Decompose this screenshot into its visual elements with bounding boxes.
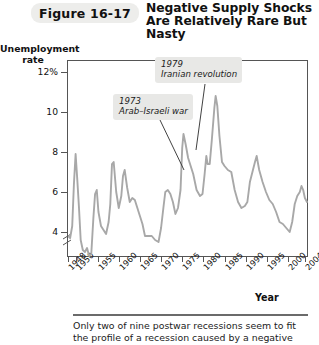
caption-divider: [73, 314, 308, 316]
callout-1979-year: 1979: [161, 59, 237, 69]
leader-line-1979: [196, 84, 205, 150]
callout-1973-event: Arab–Israeli war: [119, 106, 188, 116]
callout-leader-lines: [0, 0, 319, 345]
figure-container: Figure 16-17 Negative Supply Shocks Are …: [0, 0, 319, 345]
callout-1973-year: 1973: [119, 96, 188, 106]
callout-1979-iranian-revolution: 1979 Iranian revolution: [155, 57, 242, 83]
figure-caption: Only two of nine postwar recessions seem…: [73, 320, 313, 345]
leader-line-1973: [160, 120, 184, 170]
callout-1973-arab-israeli-war: 1973 Arab–Israeli war: [113, 94, 193, 120]
callout-1979-event: Iranian revolution: [161, 69, 237, 79]
